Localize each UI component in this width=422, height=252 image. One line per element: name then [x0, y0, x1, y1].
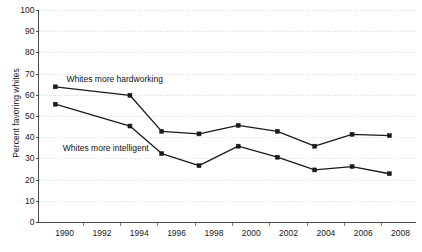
x-axis-tick-label: 2008	[381, 229, 421, 238]
series-markers	[53, 85, 391, 176]
plot-area	[0, 0, 422, 252]
x-axis-tick-label: 1990	[45, 229, 85, 238]
x-axis-tick-label: 2006	[343, 229, 383, 238]
x-axis-tick-label: 1998	[194, 229, 234, 238]
y-axis-tick-label: 30	[13, 154, 35, 163]
gridlines	[39, 11, 416, 202]
y-axis-tick-label: 90	[13, 27, 35, 36]
series-label-hardworking: Whites more hardworking	[66, 74, 162, 84]
x-axis-tick-label: 2004	[306, 229, 346, 238]
y-axis-tick-label: 100	[13, 6, 35, 15]
y-axis-tick-label: 40	[13, 133, 35, 142]
x-axis-tick-label: 1996	[157, 229, 197, 238]
x-axis-tick-label: 2002	[269, 229, 309, 238]
y-axis-tick-label: 70	[13, 70, 35, 79]
series-label-intelligent: Whites more intelligent	[63, 143, 149, 153]
x-axis-tick-label: 2000	[231, 229, 271, 238]
y-axis-tick-label: 50	[13, 112, 35, 121]
y-axis-tick-label: 60	[13, 91, 35, 100]
y-axis-tick-label: 20	[13, 176, 35, 185]
series-lines	[55, 87, 389, 174]
y-axis-tick-label: 80	[13, 48, 35, 57]
line-chart: Percent favoring whites 0102030405060708…	[0, 0, 422, 252]
y-axis-tick-label: 10	[13, 197, 35, 206]
x-axis-tick-label: 1994	[119, 229, 159, 238]
y-axis-tick-label: 0	[13, 218, 35, 227]
x-axis-tick-label: 1992	[82, 229, 122, 238]
